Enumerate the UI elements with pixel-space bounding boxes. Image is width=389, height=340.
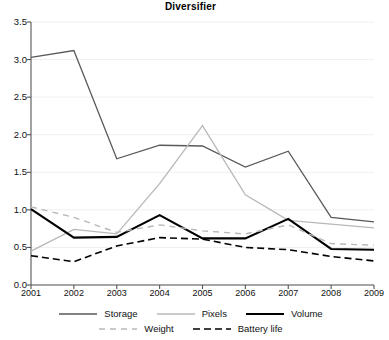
series-line-storage [31, 51, 374, 222]
legend-item-volume[interactable]: Volume [245, 308, 323, 319]
legend-label: Volume [291, 308, 323, 319]
axis-lines [31, 22, 374, 285]
x-tick-label: 2003 [100, 288, 134, 298]
legend-row-secondary: WeightBattery life [0, 321, 381, 336]
x-tick-label: 2001 [14, 288, 48, 298]
series-line-volume [31, 209, 374, 250]
y-tick-label: 2.5 [1, 91, 27, 102]
y-tick-label: 1.0 [1, 204, 27, 215]
series-line-battery-life [31, 238, 374, 262]
x-tick-label: 2002 [57, 288, 91, 298]
legend-item-weight[interactable]: Weight [98, 323, 173, 334]
legend-swatch-storage-icon [58, 309, 98, 319]
chart-legend: StoragePixelsVolume WeightBattery life [0, 306, 381, 336]
y-tick-label: 1.5 [1, 166, 27, 177]
legend-row-primary: StoragePixelsVolume [0, 306, 381, 321]
x-tick-label: 2006 [228, 288, 262, 298]
legend-swatch-weight-icon [98, 324, 138, 334]
x-tick-label: 2004 [143, 288, 177, 298]
y-tick-label: 0.5 [1, 241, 27, 252]
y-tick-label: 3.5 [1, 16, 27, 27]
legend-label: Storage [104, 308, 137, 319]
x-tick-label: 2009 [357, 288, 389, 298]
legend-label: Battery life [238, 323, 283, 334]
series-line-pixels [31, 126, 374, 251]
x-tick-label: 2007 [271, 288, 305, 298]
legend-item-pixels[interactable]: Pixels [156, 308, 227, 319]
x-tick-label: 2008 [314, 288, 348, 298]
legend-swatch-battery-life-icon [192, 324, 232, 334]
gridlines [31, 22, 374, 285]
legend-item-storage[interactable]: Storage [58, 308, 137, 319]
legend-swatch-pixels-icon [156, 309, 196, 319]
legend-swatch-volume-icon [245, 309, 285, 319]
x-tick-label: 2005 [186, 288, 220, 298]
legend-label: Weight [144, 323, 173, 334]
y-tick-label: 2.0 [1, 129, 27, 140]
legend-label: Pixels [202, 308, 227, 319]
legend-item-battery-life[interactable]: Battery life [192, 323, 283, 334]
data-series-group [31, 51, 374, 262]
y-tick-label: 3.0 [1, 54, 27, 65]
